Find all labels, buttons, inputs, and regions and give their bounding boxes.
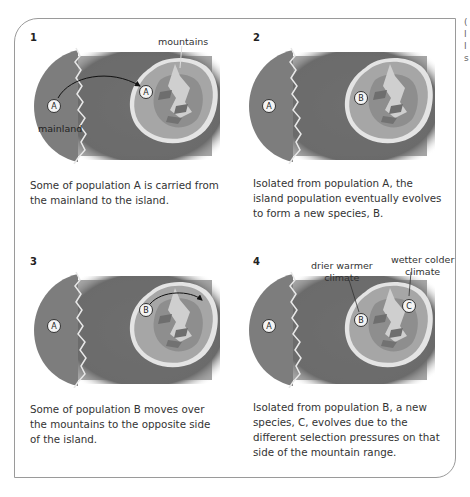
map-illustration: A A (30, 46, 220, 164)
svg-text:A: A (266, 322, 272, 331)
panel-step-3: 3 A B Some of population B moves over th… (18, 248, 230, 478)
panel-step-4: 4 A B C drier warmer climate wetter cold… (241, 248, 453, 478)
label-line: climate (324, 272, 359, 283)
step-caption: Isolated from population A, the island p… (253, 176, 445, 221)
cropped-side-text: (IIs (464, 16, 470, 64)
svg-text:A: A (51, 322, 57, 331)
panel-step-2: 2 A B Isolated from population A, the is… (241, 24, 453, 254)
step-caption: Some of population B moves over the moun… (30, 402, 222, 447)
svg-text:A: A (266, 102, 272, 111)
mountains-label: mountains (158, 36, 208, 48)
svg-text:C: C (406, 302, 412, 311)
svg-text:B: B (358, 94, 364, 103)
step-caption: Some of population A is carried from the… (30, 178, 222, 208)
step-number: 4 (253, 256, 260, 267)
label-line: climate (405, 266, 440, 277)
label-line: drier warmer (311, 260, 373, 271)
svg-text:A: A (143, 88, 149, 97)
map-illustration: A B (245, 46, 435, 164)
map-illustration: A B C (245, 270, 435, 388)
label-line: wetter colder (391, 254, 454, 265)
step-caption: Isolated from population B, a new specie… (253, 400, 445, 460)
svg-text:B: B (143, 306, 149, 315)
step-number: 3 (30, 256, 37, 267)
map-illustration: A B (30, 270, 220, 388)
panel-step-1: 1 A A mountains mainland Some of populat… (18, 24, 230, 254)
step-number: 1 (30, 32, 37, 43)
step-number: 2 (253, 32, 260, 43)
mainland-label: mainland (38, 123, 82, 135)
drier-warmer-climate-label: drier warmer climate (311, 260, 373, 284)
svg-text:B: B (358, 316, 364, 325)
wetter-colder-climate-label: wetter colder climate (391, 254, 454, 278)
svg-text:A: A (51, 102, 57, 111)
